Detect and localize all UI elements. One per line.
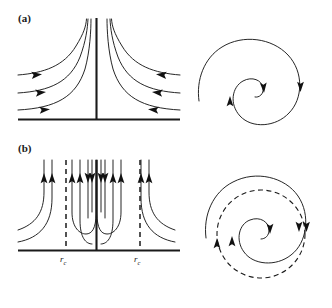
- panel-a-spiral-arrowhead-outer: [297, 82, 304, 92]
- panel-b-spiral-arrowhead-1: [303, 222, 310, 232]
- panel-b-spiral-arrowhead-5: [267, 224, 274, 234]
- panel-a-streamline-right-1: [112, 19, 181, 75]
- panel-a-spiral-group: [198, 39, 304, 124]
- panel-b-streamline-l2: [18, 160, 52, 242]
- panel-a-spiral-path: [198, 39, 299, 124]
- panel-b-streamline-r1: [149, 160, 175, 230]
- panel-b-spiral-arrowhead-2: [296, 222, 303, 232]
- panel-b-streamline-r2: [141, 160, 175, 242]
- panel-a-streamline-right-2: [110, 19, 180, 93]
- figure-root: (a) (b) rc rc: [0, 0, 332, 308]
- panel-b-spiral-arrowhead-3: [214, 238, 221, 248]
- panel-b-spiral-arrowhead-4: [229, 236, 236, 246]
- panel-b-streamline-l4: [80, 160, 92, 244]
- panel-a-spiral-arrowhead-inner: [260, 83, 267, 94]
- panel-b-streamlines-group: [18, 160, 180, 251]
- panel-a-streamline-left-2: [18, 19, 88, 93]
- panel-b-streamline-l1: [18, 160, 44, 230]
- figure-vector-layer: [0, 0, 332, 308]
- panel-b-spiral-group: [205, 176, 309, 278]
- panel-a-streamlines-group: [18, 18, 180, 120]
- panel-b-dashed-critical-circle: [217, 190, 305, 278]
- panel-a-streamline-left-1: [18, 19, 87, 75]
- panel-a-spiral-arrowhead-mid: [227, 96, 234, 106]
- panel-a-streamline-left-3: [18, 19, 91, 110]
- panel-a-streamline-right-3: [107, 19, 180, 110]
- panel-b-streamline-r4: [101, 160, 113, 244]
